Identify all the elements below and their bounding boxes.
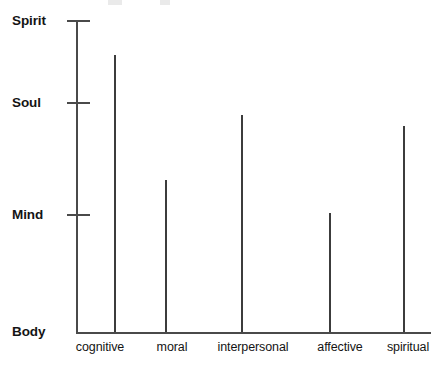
x-axis-label-moral: moral bbox=[157, 341, 188, 354]
y-tick-mind bbox=[67, 214, 90, 216]
bar-spiritual bbox=[403, 126, 405, 332]
bar-cognitive bbox=[114, 55, 116, 332]
bar-chart: Spirit Soul Mind Body cognitive moral in… bbox=[0, 0, 435, 366]
bar-interpersonal bbox=[241, 115, 243, 332]
x-axis-line bbox=[76, 332, 431, 334]
scan-artifact bbox=[160, 0, 170, 5]
y-tick-spirit bbox=[67, 20, 90, 22]
bar-moral bbox=[165, 180, 167, 332]
x-axis-label-affective: affective bbox=[317, 341, 362, 354]
y-tick-soul bbox=[67, 102, 90, 104]
x-axis-label-interpersonal: interpersonal bbox=[218, 341, 289, 354]
y-axis-label-spirit: Spirit bbox=[12, 14, 46, 28]
y-axis-label-body: Body bbox=[12, 325, 45, 339]
scan-artifact bbox=[108, 0, 122, 5]
x-axis-label-cognitive: cognitive bbox=[76, 341, 124, 354]
y-axis-label-soul: Soul bbox=[12, 96, 41, 110]
y-axis-label-mind: Mind bbox=[12, 208, 43, 222]
x-axis-label-spiritual: spiritual bbox=[387, 341, 429, 354]
y-axis-line bbox=[76, 20, 78, 334]
bar-affective bbox=[329, 213, 331, 332]
